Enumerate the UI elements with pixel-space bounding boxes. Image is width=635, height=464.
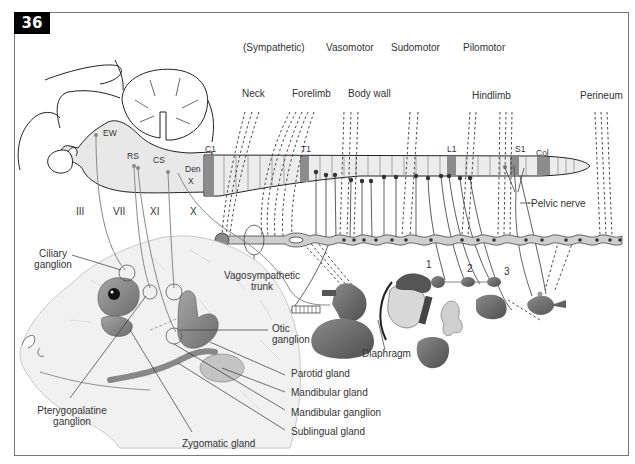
sympathetic-trunk-chain xyxy=(215,233,622,247)
segment-col: Col xyxy=(536,148,549,159)
coeliac-ganglion-1 xyxy=(431,276,445,288)
header-sympathetic: (Sympathetic) xyxy=(243,42,305,53)
label-sublingual-gland: Sublingual gland xyxy=(291,426,365,437)
heart xyxy=(332,283,367,322)
eye xyxy=(108,288,120,300)
trachea xyxy=(292,306,320,313)
nucleus-rs: RS xyxy=(127,151,139,162)
cranial-nerve-iii: III xyxy=(76,206,84,217)
header-sudomotor: Sudomotor xyxy=(391,42,440,53)
ganglion-number-3: 3 xyxy=(504,266,510,277)
label-mandibular-ganglion: Mandibular ganglion xyxy=(291,407,381,418)
label-vagosympathetic-trunk: Vagosympathetic trunk xyxy=(222,270,302,292)
cerebellum xyxy=(122,69,208,140)
label-pelvic-nerve: Pelvic nerve xyxy=(531,198,585,209)
mesenteric-ganglion-3 xyxy=(487,277,501,287)
header-pilomotor: Pilomotor xyxy=(463,42,505,53)
cranial-nerve-xi: XI xyxy=(150,206,159,217)
colon xyxy=(417,337,449,368)
label-ciliary-ganglion: Ciliary ganglion xyxy=(28,248,78,270)
label-pterygopalatine-ganglion: Pterygopalatine ganglion xyxy=(32,405,112,427)
ganglion-number-2: 2 xyxy=(467,263,473,274)
region-body-wall: Body wall xyxy=(348,88,391,99)
label-mandibular-gland: Mandibular gland xyxy=(291,387,368,398)
region-perineum: Perineum xyxy=(580,90,623,101)
region-neck: Neck xyxy=(242,88,265,99)
segment-t1: T1 xyxy=(301,144,311,155)
segment-l1: L1 xyxy=(447,144,456,155)
header-vasomotor: Vasomotor xyxy=(326,42,374,53)
mesenteric-ganglion-2 xyxy=(461,277,475,287)
cranial-nerve-vii: VII xyxy=(113,206,125,217)
intestine xyxy=(441,301,462,336)
label-zygomatic-gland: Zygomatic gland xyxy=(182,438,255,449)
nucleus-ew: EW xyxy=(103,128,117,139)
pelvic-ganglion xyxy=(538,292,543,297)
region-hindlimb: Hindlimb xyxy=(472,90,511,101)
bladder xyxy=(527,296,566,315)
olfactory-bulb xyxy=(48,148,77,173)
label-diaphragm: Diaphragm xyxy=(362,348,411,359)
region-forelimb: Forelimb xyxy=(292,88,331,99)
segment-s1: S1 xyxy=(515,144,525,155)
nucleus-den: Den xyxy=(185,164,201,175)
label-parotid-gland: Parotid gland xyxy=(291,368,350,379)
nucleus-x: X xyxy=(188,176,194,187)
kidney xyxy=(476,295,507,320)
segment-c1: C1 xyxy=(205,144,216,155)
aorta xyxy=(322,290,336,296)
cervicothoracic-ganglion xyxy=(289,237,303,243)
cranial-nerve-x: X xyxy=(190,206,197,217)
ganglion-number-1: 1 xyxy=(426,259,432,270)
label-otic-ganglion: Otic ganglion xyxy=(272,323,310,345)
nucleus-cs: CS xyxy=(153,155,165,166)
